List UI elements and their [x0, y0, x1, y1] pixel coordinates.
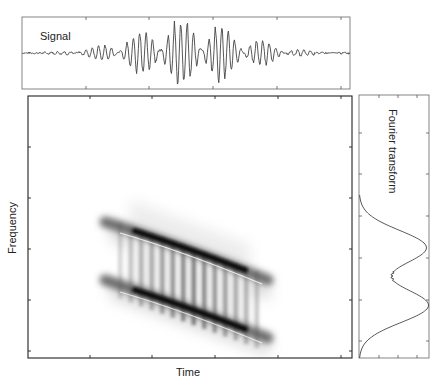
time-frequency-panel: Time Frequency — [6, 96, 352, 378]
signal-panel: Signal — [22, 17, 350, 89]
fourier-title: Fourier transform — [387, 109, 399, 193]
fourier-panel: Fourier transform — [359, 95, 429, 358]
signal-title: Signal — [40, 30, 71, 42]
figure: Signal — [0, 0, 441, 386]
y-axis-label: Frequency — [6, 202, 18, 254]
x-axis-label: Time — [176, 366, 200, 378]
